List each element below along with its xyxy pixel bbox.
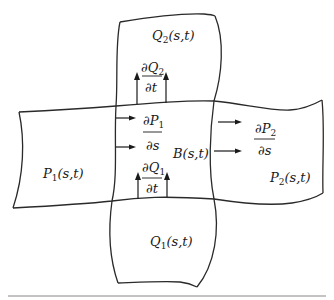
dq1-denominator: ∂t [146,181,159,196]
patch-diagram: Q2(s,t) P1(s,t) B(s,t) P2(s,t) Q1(s,t) ∂… [0,0,334,300]
p1-label: P1(s,t) [42,166,84,183]
q1-label: Q1(s,t) [150,234,193,251]
dq1-numerator: ∂Q1 [142,160,165,177]
vertical-left-edge [110,22,120,283]
arrowhead-right-icon [235,120,242,125]
dp2-ds-group: ∂P2 ∂s [214,120,276,159]
q1-bottom-edge [118,282,197,287]
horizontal-strip [13,100,323,208]
dp2-denominator: ∂s [258,143,272,158]
p2-label: P2(s,t) [269,170,311,187]
p1-left-edge [13,112,23,208]
dq1-dt-group: ∂Q1 ∂t [135,160,170,199]
arrowhead-up-icon [135,172,141,180]
dp1-numerator: ∂P1 [143,113,164,130]
dq2-numerator: ∂Q2 [141,60,164,77]
dq2-denominator: ∂t [145,80,158,95]
arrowhead-right-icon [129,145,136,150]
dp1-denominator: ∂s [146,138,160,153]
dp1-ds-group: ∂P1 ∂s [116,113,164,153]
dq2-dt-group: ∂Q2 ∂t [134,60,169,104]
arrowhead-right-icon [129,116,136,121]
p2-right-edge [322,100,323,193]
arrowhead-right-icon [235,149,242,154]
q2-top-edge [120,14,215,22]
b-label: B(s,t) [172,146,209,161]
dp2-numerator: ∂P2 [255,121,276,138]
q2-label: Q2(s,t) [152,28,195,45]
strip-bottom-edge [13,193,323,208]
strip-top-edge [19,100,322,112]
arrowhead-up-icon [134,72,140,80]
